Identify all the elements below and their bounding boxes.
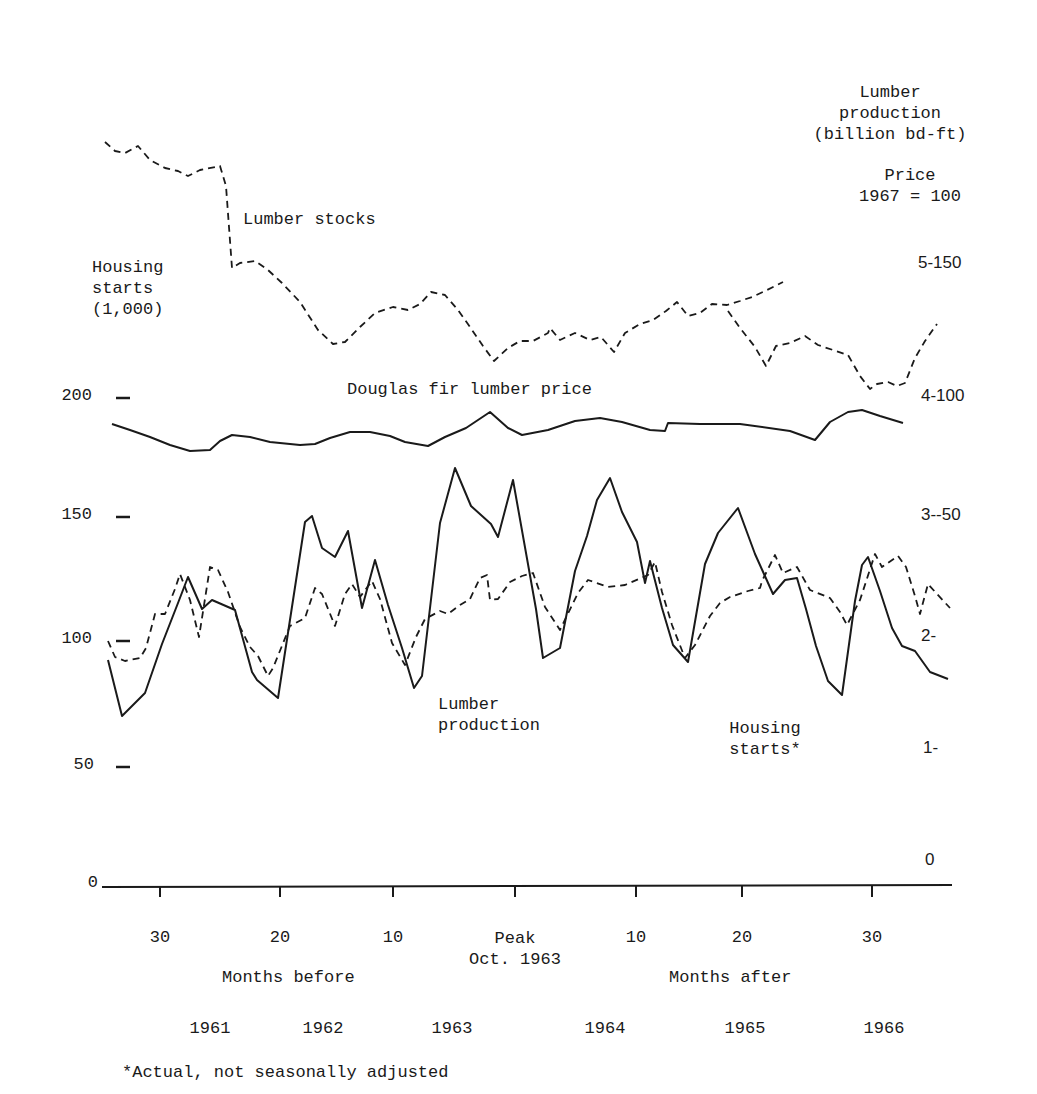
right-axis-tick-label: 1- (923, 738, 938, 758)
series-housing-starts (108, 468, 948, 716)
left-axis-title: Housing starts (1,000) (92, 257, 163, 320)
right-axis-tick-label: 4-100 (921, 386, 964, 406)
series-lumber-stocks-cont (728, 311, 937, 389)
label-lumber-stocks: Lumber stocks (243, 209, 376, 230)
x-tick-label: 30 (150, 928, 170, 947)
x-tick-label: 10 (626, 928, 646, 947)
x-axis-line (102, 885, 952, 887)
right-axis-title-production: Lumber production (billion bd-ft) (760, 82, 1020, 145)
year-label: 1966 (864, 1019, 905, 1038)
label-housing-starts: Housing starts* (710, 718, 820, 760)
x-tick-label: 20 (270, 928, 290, 947)
right-axis-title-price: Price 1967 = 100 (810, 165, 1010, 207)
x-tick-label: 10 (383, 928, 403, 947)
series-douglas-fir-lumber-price (112, 410, 903, 451)
tick-layer (116, 398, 872, 897)
series-layer (105, 142, 950, 716)
year-label: 1961 (190, 1019, 231, 1038)
x-tick-label: 20 (732, 928, 752, 947)
peak-label: Peak Oct. 1963 (455, 928, 575, 970)
year-label: 1965 (725, 1019, 766, 1038)
right-axis-tick-label: 3--50 (921, 505, 961, 525)
series-lumber-stocks (105, 142, 783, 361)
right-axis-tick-label: 0 (925, 850, 934, 870)
label-lumber-production: Lumber production (438, 694, 540, 736)
right-axis-tick-label: 5-150 (918, 253, 961, 273)
label-douglas-fir-price: Douglas fir lumber price (347, 379, 592, 400)
left-axis-tick-label: 0 (38, 873, 98, 892)
x-tick-label: 30 (862, 928, 882, 947)
left-axis-tick-label: 200 (32, 386, 92, 405)
axis-layer (102, 885, 952, 887)
months-before-label: Months before (222, 967, 355, 988)
months-after-label: Months after (669, 967, 791, 988)
year-label: 1962 (303, 1019, 344, 1038)
footnote: *Actual, not seasonally adjusted (122, 1062, 448, 1083)
year-label: 1963 (432, 1019, 473, 1038)
year-label: 1964 (585, 1019, 626, 1038)
right-axis-tick-label: 2- (921, 626, 936, 646)
left-axis-tick-label: 50 (34, 755, 94, 774)
left-axis-tick-label: 100 (32, 629, 92, 648)
left-axis-tick-label: 150 (32, 505, 92, 524)
